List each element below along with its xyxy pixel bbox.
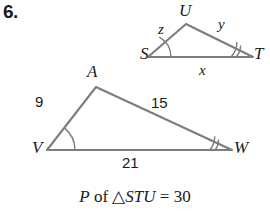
side-label-15: 15 xyxy=(151,95,168,110)
problem-figure-page: 6. S T U x y z A V W 9 15 21 P o xyxy=(0,0,270,214)
angle-mark-w-arc2 xyxy=(210,136,215,150)
perimeter-caption: P of △STU = 30 xyxy=(0,186,270,207)
vertex-label-w: W xyxy=(234,139,248,156)
vertex-label-t: T xyxy=(254,45,263,62)
caption-equals: = xyxy=(156,187,174,206)
angle-mark-s-arc1 xyxy=(159,37,171,57)
vertex-label-a: A xyxy=(87,63,97,80)
triangle-avw-outline xyxy=(47,87,232,150)
caption-perimeter-letter: P xyxy=(79,187,89,206)
side-label-x: x xyxy=(199,63,206,78)
side-label-y: y xyxy=(218,17,225,32)
angle-mark-w-arc1 xyxy=(215,139,219,150)
vertex-label-v: V xyxy=(32,139,42,156)
large-triangle-avw xyxy=(47,87,232,150)
caption-value: 30 xyxy=(174,187,191,206)
vertex-label-u: U xyxy=(179,2,191,19)
angle-mark-t-arc2 xyxy=(231,42,237,57)
angle-mark-v-arc1 xyxy=(65,128,75,150)
side-label-21: 21 xyxy=(122,155,139,170)
side-label-9: 9 xyxy=(35,94,43,109)
caption-triangle-name: STU xyxy=(125,187,155,206)
triangle-symbol-icon: △ xyxy=(112,187,125,206)
side-label-z: z xyxy=(158,22,164,37)
caption-of-word: of xyxy=(90,187,113,206)
vertex-label-s: S xyxy=(140,45,149,62)
